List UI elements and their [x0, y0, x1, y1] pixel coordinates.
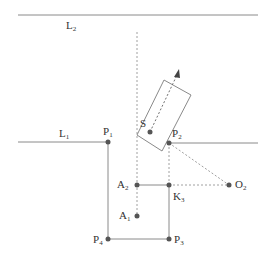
arrowhead-icon	[174, 69, 180, 78]
direction-arrow-shaft	[150, 75, 177, 132]
point-k3	[167, 183, 172, 188]
label-l1: L1	[59, 127, 70, 141]
geometry-diagram: L2 L1 P1 P2 S A2 A1 K3 O2 P4 P3	[0, 0, 274, 265]
label-p4: P4	[93, 233, 103, 247]
point-p1	[106, 140, 111, 145]
dashed-p2-o2	[169, 143, 229, 185]
label-k3: K3	[173, 190, 185, 204]
rotated-rectangle	[137, 80, 191, 151]
label-a2: A2	[117, 178, 129, 192]
label-p1: P1	[103, 125, 113, 139]
label-s: S	[140, 117, 146, 129]
label-p3: P3	[174, 233, 184, 247]
point-s	[148, 130, 153, 135]
label-o2: O2	[235, 178, 247, 192]
point-a2	[135, 183, 140, 188]
point-o2	[227, 183, 232, 188]
point-p3	[167, 237, 172, 242]
label-l2: L2	[66, 19, 77, 33]
point-a1	[135, 214, 140, 219]
label-a1: A1	[119, 209, 131, 223]
point-p4	[106, 237, 111, 242]
point-p2	[167, 141, 172, 146]
label-p2: P2	[172, 127, 182, 141]
